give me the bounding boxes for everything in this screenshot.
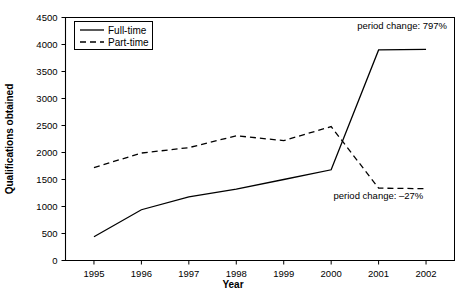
x-axis-ticks — [94, 261, 426, 265]
y-tick-label: 0 — [52, 255, 57, 266]
chart-container: 050010001500200025003000350040004500 199… — [0, 0, 465, 300]
y-tick-label: 4500 — [36, 12, 57, 23]
y-tick-label: 1500 — [36, 174, 57, 185]
y-tick-label: 500 — [42, 228, 58, 239]
legend-label-full-time: Full-time — [108, 25, 147, 36]
x-tick-label: 1995 — [83, 268, 104, 279]
legend-label-part-time: Part-time — [108, 37, 149, 48]
y-tick-label: 3500 — [36, 66, 57, 77]
x-tick-label: 1999 — [273, 268, 294, 279]
chart-annotation: period change: 797% — [357, 20, 447, 31]
y-tick-label: 4000 — [36, 39, 57, 50]
plot-area-frame — [66, 18, 455, 261]
y-tick-label: 2500 — [36, 120, 57, 131]
series-line-full-time — [94, 49, 426, 236]
y-tick-label: 2000 — [36, 147, 57, 158]
y-axis-tick-labels: 050010001500200025003000350040004500 — [36, 12, 57, 266]
x-tick-label: 1996 — [131, 268, 152, 279]
y-axis-title: Qualifications obtained — [4, 84, 15, 195]
x-tick-label: 2002 — [415, 268, 436, 279]
y-tick-label: 1000 — [36, 201, 57, 212]
x-tick-label: 1998 — [226, 268, 247, 279]
annotations-group: period change: 797%period change: –27% — [334, 20, 448, 201]
data-series-group — [94, 49, 426, 236]
x-tick-label: 1997 — [178, 268, 199, 279]
series-line-part-time — [94, 127, 426, 189]
chart-legend: Full-time Part-time — [75, 22, 153, 50]
y-axis-ticks — [62, 18, 66, 261]
chart-annotation: period change: –27% — [334, 190, 424, 201]
y-tick-label: 3000 — [36, 93, 57, 104]
x-tick-label: 2001 — [368, 268, 389, 279]
x-tick-label: 2000 — [321, 268, 342, 279]
line-chart: 050010001500200025003000350040004500 199… — [0, 0, 465, 300]
x-axis-title: Year — [222, 279, 243, 290]
x-axis-tick-labels: 19951996199719981999200020012002 — [83, 268, 436, 279]
